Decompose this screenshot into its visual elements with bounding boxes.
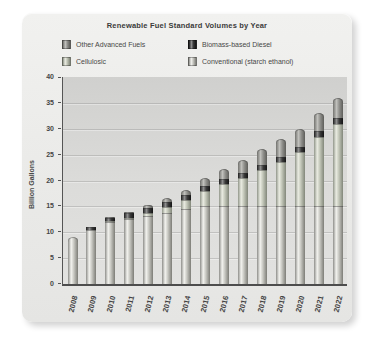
bar-segment-bbd	[276, 157, 286, 162]
bar-segment-bbd	[333, 118, 343, 123]
bar-2017	[238, 160, 248, 284]
x-tick-label: 2012	[143, 295, 155, 313]
chart-title: Renewable Fuel Standard Volumes by Year	[22, 21, 352, 30]
x-tick-label: 2010	[105, 295, 117, 313]
x-tick-label: 2015	[200, 295, 212, 313]
bar-segment-cellulosic	[295, 152, 305, 206]
y-tick-mark	[58, 180, 61, 181]
y-tick-mark	[58, 257, 61, 258]
bar-2016	[219, 169, 229, 284]
bar-segment-cellulosic	[333, 124, 343, 207]
legend-swatch-cellulosic	[62, 57, 71, 66]
bar-segment-conventional	[124, 219, 134, 284]
plot-area	[62, 77, 347, 286]
bar-segment-cellulosic	[105, 221, 115, 222]
bar-2010	[105, 217, 115, 284]
bar-2013	[162, 198, 172, 284]
y-tick-label: 0	[50, 280, 54, 288]
bar-segment-conventional	[276, 206, 286, 284]
y-tick-label: 25	[46, 151, 54, 159]
bar-2021	[314, 113, 324, 284]
y-tick-mark	[58, 77, 61, 78]
y-tick-mark	[58, 283, 61, 284]
bar-segment-cellulosic	[143, 213, 153, 216]
bar-segment-conventional	[295, 206, 305, 284]
bar-segment-bbd	[295, 147, 305, 152]
bar-segment-conventional	[162, 213, 172, 284]
bar-segment-cellulosic	[276, 162, 286, 206]
bar-segment-other	[238, 160, 248, 173]
y-tick-label: 35	[46, 99, 54, 107]
legend-label-biomass-based-diesel: Biomass-based Diesel	[202, 41, 272, 48]
bar-segment-other	[162, 198, 172, 202]
bar-segment-cellulosic	[314, 137, 324, 207]
bar-segment-conventional	[200, 206, 210, 284]
legend-item-conventional: Conventional (starch ethanol)	[188, 57, 293, 66]
legend-label-conventional: Conventional (starch ethanol)	[202, 58, 293, 65]
x-tick-label: 2018	[257, 295, 269, 313]
bar-segment-conventional	[86, 230, 96, 284]
bar-segment-other	[105, 217, 115, 218]
bar-segment-conventional	[257, 206, 267, 284]
bar-segment-conventional	[68, 237, 78, 284]
x-tick-label: 2009	[86, 295, 98, 313]
grid-line	[63, 103, 347, 104]
x-tick-label: 2011	[124, 295, 136, 313]
bar-segment-bbd	[314, 131, 324, 136]
bar-segment-other	[257, 149, 267, 165]
bar-segment-conventional	[314, 206, 324, 284]
bar-2022	[333, 98, 343, 284]
legend-item-cellulosic: Cellulosic	[62, 57, 188, 66]
bar-segment-conventional	[219, 206, 229, 284]
bar-segment-cellulosic	[257, 170, 267, 206]
y-tick-label: 15	[46, 202, 54, 210]
bar-segment-bbd	[143, 208, 153, 213]
bar-segment-other	[314, 113, 324, 131]
x-axis: 2008200920102011201220132014201520162017…	[62, 287, 347, 321]
bar-segment-other	[276, 139, 286, 157]
bar-segment-other	[333, 98, 343, 119]
bar-segment-cellulosic	[162, 207, 172, 212]
legend-item-other-advanced-fuels: Other Advanced Fuels	[62, 40, 188, 49]
bar-segment-bbd	[86, 227, 96, 230]
bar-2008	[68, 237, 78, 284]
bar-segment-conventional	[143, 216, 153, 284]
bar-segment-other	[86, 227, 96, 228]
x-tick-label: 2019	[276, 295, 288, 313]
bar-2009	[86, 227, 96, 284]
bar-segment-other	[295, 129, 305, 147]
x-tick-label: 2022	[333, 295, 345, 313]
chart-card: Renewable Fuel Standard Volumes by Year …	[22, 13, 352, 322]
bar-segment-bbd	[257, 165, 267, 170]
legend-swatch-other-advanced-fuels	[62, 40, 71, 49]
bar-2011	[124, 212, 134, 284]
bar-segment-other	[219, 169, 229, 179]
bar-segment-bbd	[105, 218, 115, 221]
x-tick-label: 2017	[238, 295, 250, 313]
legend-label-cellulosic: Cellulosic	[76, 58, 106, 65]
bar-segment-bbd	[181, 195, 191, 200]
bar-segment-bbd	[162, 202, 172, 207]
bar-segment-cellulosic	[219, 184, 229, 206]
legend-swatch-biomass-based-diesel	[188, 40, 197, 49]
bar-2019	[276, 139, 286, 284]
y-axis: 0510152025303540	[22, 77, 62, 286]
x-tick-label: 2021	[314, 295, 326, 313]
y-tick-label: 5	[50, 254, 54, 262]
y-tick-mark	[58, 205, 61, 206]
x-tick-label: 2014	[181, 295, 193, 313]
bar-segment-cellulosic	[200, 191, 210, 207]
bar-segment-other	[200, 178, 210, 186]
legend: Other Advanced Fuels Biomass-based Diese…	[62, 40, 293, 66]
bar-2018	[257, 149, 267, 284]
bar-2012	[143, 205, 153, 284]
bar-segment-bbd	[200, 186, 210, 191]
bar-2014	[181, 190, 191, 284]
x-tick-label: 2008	[68, 295, 80, 313]
y-tick-mark	[58, 102, 61, 103]
y-tick-label: 30	[46, 125, 54, 133]
x-tick-label: 2013	[162, 295, 174, 313]
bar-segment-cellulosic	[124, 218, 134, 219]
bar-segment-cellulosic	[238, 178, 248, 206]
bar-segment-conventional	[238, 206, 248, 284]
